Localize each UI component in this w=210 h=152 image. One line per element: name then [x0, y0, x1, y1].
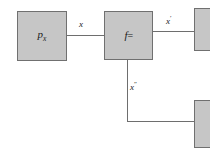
block-f[interactable]: f= [104, 11, 153, 60]
edge-label-x-double-prime-mark: ″ [134, 80, 137, 88]
block-right-top[interactable] [194, 8, 210, 51]
edge-label-x-double-prime: x″ [130, 81, 137, 92]
block-right-bottom[interactable] [194, 100, 210, 148]
edge-label-x-prime-mark: ′ [170, 14, 172, 22]
block-f-label-equals: = [127, 30, 132, 41]
block-px-label-subscript: x [43, 34, 46, 43]
block-f-label: f= [124, 30, 132, 41]
block-px-label: px [38, 29, 47, 43]
edge-label-x-base: x [79, 19, 83, 29]
edge-label-x-prime: x′ [166, 15, 172, 26]
edge-label-x: x [79, 20, 83, 29]
wire-down-to-right-bottom [127, 121, 194, 122]
wire-f-to-right-top [153, 31, 194, 32]
wire-f-down-branch [127, 60, 128, 122]
wire-px-to-f [67, 35, 104, 36]
block-px[interactable]: px [17, 11, 67, 61]
diagram-canvas: px f= x x′ x″ [0, 0, 210, 152]
